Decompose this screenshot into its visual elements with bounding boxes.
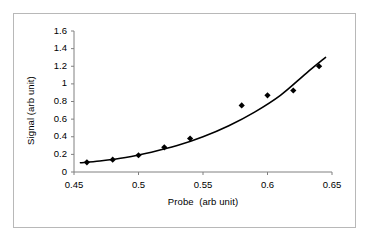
- y-tick-label: 1.4: [37, 42, 67, 53]
- x-tick-label: 0.45: [54, 179, 94, 190]
- data-point-marker: [84, 159, 90, 165]
- data-points: [84, 63, 322, 165]
- x-tick-label: 0.6: [248, 179, 288, 190]
- data-point-marker: [110, 157, 116, 163]
- data-point-marker: [239, 102, 245, 108]
- y-tick-label: 0: [37, 166, 67, 177]
- y-tick-label: 1.2: [37, 60, 67, 71]
- y-tick-label: 1: [37, 77, 67, 88]
- data-point-marker: [264, 92, 270, 98]
- axes: [74, 31, 332, 172]
- x-tick-label: 0.65: [312, 179, 352, 190]
- y-tick-label: 0.8: [37, 95, 67, 106]
- data-point-marker: [290, 87, 296, 93]
- data-point-marker: [135, 152, 141, 158]
- y-tick-label: 1.6: [37, 25, 67, 36]
- x-tick-label: 0.5: [119, 179, 159, 190]
- y-tick-label: 0.2: [37, 148, 67, 159]
- y-tick-label: 0.4: [37, 130, 67, 141]
- x-tick-label: 0.55: [183, 179, 223, 190]
- y-tick-label: 0.6: [37, 113, 67, 124]
- figure: Signal (arb unit) Probe (arb unit) 00.20…: [0, 0, 370, 243]
- fitted-curve: [80, 57, 325, 162]
